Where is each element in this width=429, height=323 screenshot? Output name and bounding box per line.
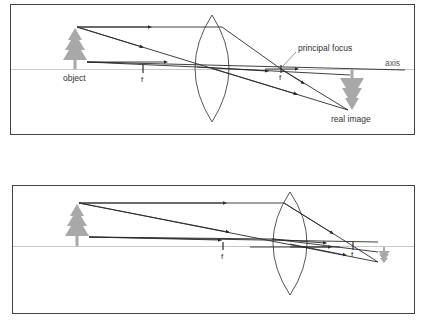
ray-diagrams: object f f principal focus axis real ima… <box>0 0 429 323</box>
real-image-label: real image <box>331 114 371 124</box>
principal-focus-label: principal focus <box>298 43 352 53</box>
object-label: object <box>63 73 86 83</box>
axis-label: axis <box>385 58 400 68</box>
bottom-diagram: f f <box>13 186 415 314</box>
top-diagram: object f f principal focus axis real ima… <box>11 5 415 135</box>
